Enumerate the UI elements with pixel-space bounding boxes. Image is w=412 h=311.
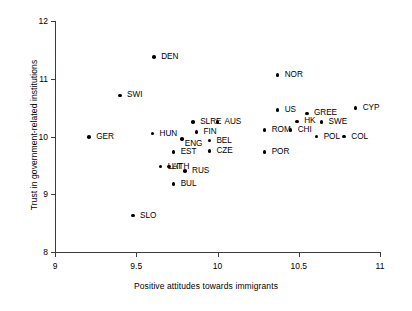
data-point-label: BUL — [181, 180, 197, 188]
data-point — [263, 150, 267, 154]
data-point — [315, 135, 319, 139]
data-point — [152, 55, 156, 59]
data-point — [131, 214, 135, 218]
data-point — [167, 165, 171, 169]
data-point-label: COL — [351, 133, 368, 141]
data-point-label: SWE — [329, 118, 348, 126]
data-point-label: AUS — [225, 118, 242, 126]
data-point — [183, 169, 187, 173]
x-tick-mark — [380, 253, 381, 257]
x-tick-mark — [55, 253, 56, 257]
data-point-label: US — [285, 106, 296, 114]
y-tick-mark — [51, 79, 55, 80]
x-tick-label: 9 — [40, 262, 70, 271]
data-point-label: SWI — [127, 91, 142, 99]
data-point-label: POR — [272, 148, 290, 156]
data-point-label: HUN — [160, 130, 178, 138]
data-point-label: LITH — [172, 163, 190, 171]
x-tick-label: 10 — [203, 262, 233, 271]
data-point — [295, 120, 299, 124]
data-point-label: BEL — [216, 137, 231, 145]
x-tick-mark — [218, 253, 219, 257]
data-point — [263, 128, 267, 132]
x-tick-label: 10.5 — [284, 262, 314, 271]
y-tick-mark — [51, 194, 55, 195]
data-point-label: CYP — [363, 104, 380, 112]
data-point — [208, 149, 212, 153]
data-point — [289, 128, 293, 132]
y-tick-mark — [51, 21, 55, 22]
data-point — [172, 150, 176, 154]
data-point — [276, 108, 280, 112]
data-point-label: SLO — [140, 212, 156, 220]
data-point-label: CHI — [298, 126, 312, 134]
data-point — [305, 112, 309, 116]
data-point — [151, 132, 155, 136]
data-point-label: FIN — [203, 128, 216, 136]
x-tick-mark — [136, 253, 137, 257]
x-axis-title: Positive attitudes towards immigrants — [0, 281, 412, 291]
data-point — [320, 120, 324, 124]
y-tick-mark — [51, 137, 55, 138]
data-point — [195, 130, 199, 134]
data-point-label: DEN — [161, 53, 178, 61]
data-point — [216, 120, 220, 124]
data-point — [118, 94, 122, 98]
data-point — [172, 182, 176, 186]
scatter-chart: 89101112 99.51010.511 DENSWINORUSGREECYP… — [0, 0, 412, 311]
data-point — [87, 135, 91, 139]
data-point-label: NOR — [285, 71, 303, 79]
x-tick-label: 9.5 — [121, 262, 151, 271]
data-point — [208, 139, 212, 143]
data-point-label: GER — [96, 133, 114, 141]
data-point-label: ROM — [272, 126, 291, 134]
x-tick-label: 11 — [365, 262, 395, 271]
data-point-label: CZE — [216, 147, 232, 155]
data-point — [191, 120, 195, 124]
data-point — [159, 165, 163, 169]
data-point — [180, 137, 184, 141]
data-point-label: EST — [181, 148, 197, 156]
data-point — [354, 106, 358, 110]
y-axis-title: Trust in government-related institutions — [29, 15, 39, 255]
data-point — [276, 73, 280, 77]
data-point — [342, 135, 346, 139]
x-tick-mark — [299, 253, 300, 257]
data-point-label: POL — [324, 133, 340, 141]
data-point-label: RUS — [192, 167, 209, 175]
y-axis-line — [55, 21, 56, 252]
